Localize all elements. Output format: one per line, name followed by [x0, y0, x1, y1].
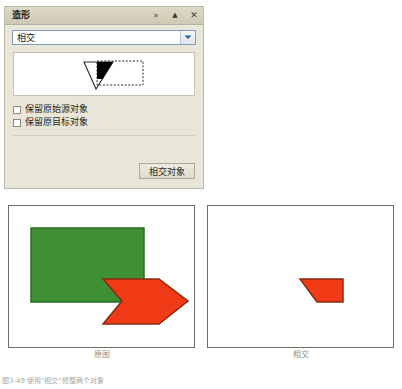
- caption-original: 原图: [8, 351, 195, 359]
- action-button-row: 相交对象: [139, 163, 195, 179]
- operation-select-wrap: 相交: [12, 30, 196, 45]
- checkbox-keep-target[interactable]: [13, 119, 21, 127]
- canvas-original: [8, 205, 195, 348]
- figure-number-caption: 图3-49 使用"相交"修整两个对象: [2, 378, 104, 385]
- panel-title: 造形: [12, 11, 31, 20]
- result-shape-illustration: [208, 206, 393, 347]
- chevron-down-icon[interactable]: [180, 31, 195, 44]
- panel-divider: [13, 135, 195, 136]
- options-group: 保留原始源对象 保留原目标对象: [13, 103, 203, 129]
- operation-select-value: 相交: [17, 31, 35, 44]
- checkbox-keep-source[interactable]: [13, 106, 21, 114]
- checkbox-keep-target-label: 保留原目标对象: [25, 118, 88, 127]
- panel-titlebar[interactable]: 造形 » ▲ ✕: [5, 7, 203, 25]
- collapse-triangle-icon[interactable]: ▲: [170, 12, 180, 19]
- checkbox-keep-source-label: 保留原始源对象: [25, 105, 88, 114]
- close-icon[interactable]: ✕: [189, 11, 199, 20]
- original-shapes-illustration: [9, 206, 194, 347]
- operation-select[interactable]: 相交: [12, 30, 196, 45]
- figure-cell-original: 原图: [8, 205, 195, 359]
- figure-area: 原图 相交: [8, 205, 394, 373]
- intersect-objects-button[interactable]: 相交对象: [139, 163, 195, 179]
- canvas-result: [207, 205, 394, 348]
- preview-illustration: [14, 53, 196, 95]
- expand-collapse-chevrons-icon[interactable]: »: [151, 12, 161, 20]
- caption-result: 相交: [207, 351, 394, 359]
- figure-cell-result: 相交: [207, 205, 394, 359]
- shaping-panel: 造形 » ▲ ✕ 相交 保留原始源对象: [4, 6, 204, 189]
- checkbox-keep-target-row[interactable]: 保留原目标对象: [13, 116, 203, 129]
- checkbox-keep-source-row[interactable]: 保留原始源对象: [13, 103, 203, 116]
- figure-panels: 原图 相交: [8, 205, 394, 359]
- operation-preview: [13, 52, 195, 96]
- titlebar-button-group: » ▲ ✕: [151, 7, 199, 24]
